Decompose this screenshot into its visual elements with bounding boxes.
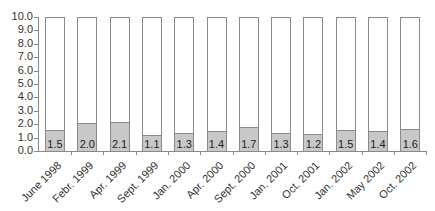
x-tick xyxy=(362,151,363,155)
bar: 2.0 xyxy=(77,17,97,152)
y-tick-label: 10.0 xyxy=(3,10,33,22)
y-tick xyxy=(34,84,38,85)
stacked-bar-chart: 0.01.02.03.04.05.06.07.08.09.010.01.5Jun… xyxy=(0,0,435,211)
y-tick xyxy=(34,124,38,125)
y-tick xyxy=(34,151,38,152)
bar-value-label: 1.1 xyxy=(143,138,161,150)
bar: 1.4 xyxy=(207,17,227,152)
x-tick xyxy=(265,151,266,155)
y-tick-label: 2.0 xyxy=(3,117,33,129)
y-tick xyxy=(34,111,38,112)
bar: 1.4 xyxy=(368,17,388,152)
y-tick xyxy=(34,97,38,98)
bar-value-label: 1.5 xyxy=(337,138,355,150)
bar-value-label: 1.5 xyxy=(46,138,64,150)
bar-value-label: 1.6 xyxy=(401,138,419,150)
bar-value-label: 1.2 xyxy=(304,138,322,150)
bar-value-label: 1.3 xyxy=(272,138,290,150)
y-tick-label: 3.0 xyxy=(3,104,33,116)
x-tick xyxy=(103,151,104,155)
x-tick xyxy=(394,151,395,155)
y-tick-label: 4.0 xyxy=(3,90,33,102)
y-tick-label: 6.0 xyxy=(3,64,33,76)
y-axis xyxy=(38,17,39,151)
y-tick xyxy=(34,44,38,45)
x-tick xyxy=(233,151,234,155)
y-tick-label: 0.0 xyxy=(3,144,33,156)
y-tick-label: 9.0 xyxy=(3,23,33,35)
y-tick xyxy=(34,30,38,31)
y-tick xyxy=(34,57,38,58)
x-tick xyxy=(71,151,72,155)
x-tick xyxy=(329,151,330,155)
y-tick-label: 1.0 xyxy=(3,131,33,143)
x-tick xyxy=(168,151,169,155)
y-tick xyxy=(34,17,38,18)
y-tick-label: 5.0 xyxy=(3,77,33,89)
x-tick xyxy=(426,151,427,155)
bar-value-label: 2.0 xyxy=(78,138,96,150)
bar-value-label: 1.7 xyxy=(240,138,258,150)
bar: 1.5 xyxy=(45,17,65,152)
x-tick xyxy=(297,151,298,155)
bar: 1.3 xyxy=(271,17,291,152)
y-tick xyxy=(34,71,38,72)
bar: 1.3 xyxy=(174,17,194,152)
y-tick xyxy=(34,138,38,139)
y-tick-label: 7.0 xyxy=(3,50,33,62)
bar-value-label: 1.4 xyxy=(369,138,387,150)
y-tick-label: 8.0 xyxy=(3,37,33,49)
bar-value-label: 1.3 xyxy=(175,138,193,150)
x-tick xyxy=(136,151,137,155)
bar: 1.5 xyxy=(336,17,356,152)
bar-value-label: 1.4 xyxy=(208,138,226,150)
bar: 1.2 xyxy=(303,17,323,152)
bar-value-label: 2.1 xyxy=(111,138,129,150)
bar: 1.7 xyxy=(239,17,259,152)
bar: 1.1 xyxy=(142,17,162,152)
bar: 1.6 xyxy=(400,17,420,152)
bar: 2.1 xyxy=(110,17,130,152)
x-tick xyxy=(200,151,201,155)
